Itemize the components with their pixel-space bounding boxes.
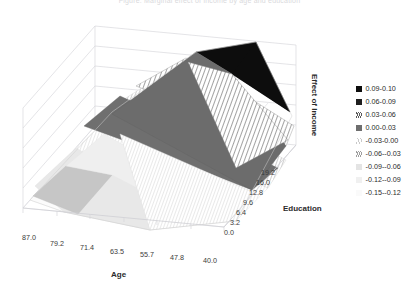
x-tick-label: 40.0 — [203, 257, 217, 264]
legend-item-label: 0.03-0.06 — [366, 111, 396, 118]
legend-swatch-icon — [356, 138, 362, 144]
y-tick-label: 19.2 — [261, 169, 275, 176]
legend-item[interactable]: 0.06-0.09 — [356, 95, 418, 108]
legend-swatch-icon — [356, 164, 362, 170]
legend-swatch-icon — [356, 125, 362, 131]
y-tick-label: 0.0 — [224, 229, 234, 236]
legend-item-label: -0.15--0.12 — [366, 189, 401, 196]
legend-swatch-icon — [356, 86, 362, 92]
legend-item-label: -0.12--0.09 — [366, 176, 401, 183]
x-tick-label: 63.5 — [110, 248, 124, 255]
legend-item-label: -0.03-0.00 — [366, 137, 399, 144]
legend-item-label: -0.09--0.06 — [366, 163, 401, 170]
legend-item[interactable]: 0.03-0.06 — [356, 108, 418, 121]
legend-item-label: 0.09-0.10 — [366, 85, 396, 92]
legend-item[interactable]: -0.09--0.06 — [356, 160, 418, 173]
y-tick-label: 3.2 — [230, 219, 240, 226]
y-axis-title: Education — [283, 205, 322, 213]
x-tick-label: 47.8 — [170, 254, 184, 261]
legend-item[interactable]: 0.00-0.03 — [356, 121, 418, 134]
legend-swatch-icon — [356, 151, 362, 157]
y-tick-label: 12.8 — [249, 189, 263, 196]
y-tick-label: 16.0 — [256, 179, 270, 186]
legend-swatch-icon — [356, 177, 362, 183]
x-axis-title: Age — [111, 271, 126, 279]
legend-item[interactable]: -0.06--0.03 — [356, 147, 418, 160]
legend-swatch-icon — [356, 99, 362, 105]
legend-swatch-icon — [356, 112, 362, 118]
z-axis-title: Effect of Income — [310, 74, 318, 136]
legend: 0.09-0.10 0.06-0.09 0.03-0.06 0.00-0.03 … — [356, 82, 418, 199]
y-tick-label: 6.4 — [236, 209, 246, 216]
legend-item[interactable]: 0.09-0.10 — [356, 82, 418, 95]
legend-item[interactable]: -0.03-0.00 — [356, 134, 418, 147]
surface-bands — [30, 42, 294, 230]
x-tick-label: 55.7 — [140, 251, 154, 258]
y-tick-label: 9.6 — [243, 199, 253, 206]
legend-item-label: 0.00-0.03 — [366, 124, 396, 131]
legend-item-label: -0.06--0.03 — [366, 150, 401, 157]
x-tick-label: 87.0 — [22, 234, 36, 241]
x-tick-label: 79.2 — [50, 240, 64, 247]
legend-item[interactable]: -0.12--0.09 — [356, 173, 418, 186]
legend-item-label: 0.06-0.09 — [366, 98, 396, 105]
legend-swatch-icon — [356, 190, 362, 196]
x-tick-label: 71.4 — [80, 244, 94, 251]
legend-item[interactable]: -0.15--0.12 — [356, 186, 418, 199]
surface-chart: Figure: Marginal effect of income by age… — [0, 0, 419, 292]
